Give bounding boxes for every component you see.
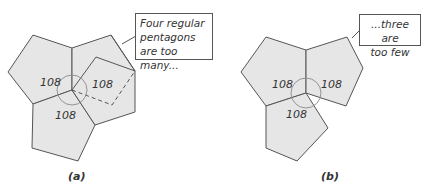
- callout-b-line-1: ...three are: [364, 17, 416, 45]
- callout-a-line-2: pentagons: [140, 30, 208, 44]
- caption-a: (a): [68, 170, 85, 183]
- pentagon-b-bottom: [266, 93, 328, 161]
- angle-label-b-3: 108: [286, 108, 307, 121]
- angle-label-a-2: 108: [92, 78, 113, 91]
- caption-b: (b): [321, 170, 339, 183]
- angle-label-b-1: 108: [272, 78, 293, 91]
- callout-b: ...three are too few: [359, 14, 421, 46]
- pentagon-b-right: [306, 37, 363, 106]
- panel-a-figure: 108 108 108: [8, 35, 136, 161]
- callout-pointer-a: [122, 36, 136, 44]
- angle-label-b-2: 108: [321, 78, 342, 91]
- angle-label-a-3: 108: [55, 109, 76, 122]
- angle-label-a-1: 108: [40, 76, 61, 89]
- callout-a-line-1: Four regular: [140, 16, 208, 30]
- callout-b-line-2: too few: [364, 45, 416, 59]
- callout-a: Four regular pentagons are too many...: [135, 13, 213, 60]
- callout-a-line-3: are too many...: [140, 44, 208, 72]
- panel-b-figure: 108 108 108: [241, 30, 363, 161]
